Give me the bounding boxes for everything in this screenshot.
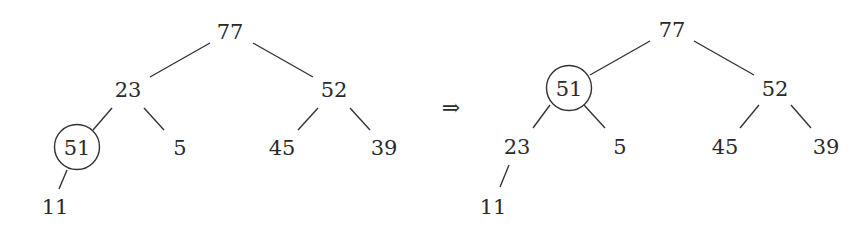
tree-node: 77 xyxy=(217,20,244,44)
tree-node: 23 xyxy=(504,135,531,159)
edge-52-45 xyxy=(740,105,759,128)
tree-node: 52 xyxy=(762,77,789,101)
edge-52-39 xyxy=(791,105,811,128)
tree-node: 39 xyxy=(371,136,398,160)
tree-node: 77 xyxy=(659,18,686,42)
tree-node: 5 xyxy=(613,135,626,159)
tree-before: 77 23 52 51 5 45 39 11 xyxy=(42,20,398,219)
edge-77-23 xyxy=(150,43,210,77)
tree-after: 77 51 52 23 5 45 39 11 xyxy=(480,18,840,219)
heap-diagram: 77 23 52 51 5 45 39 11 ⇒ 77 51 52 xyxy=(0,0,865,228)
tree-node: 23 xyxy=(115,78,142,102)
edge-77-52 xyxy=(253,43,313,77)
edge-52-39 xyxy=(350,108,370,130)
edge-51-11 xyxy=(59,170,67,189)
edge-23-11 xyxy=(500,165,509,187)
edge-23-5 xyxy=(144,108,164,130)
edge-51-5 xyxy=(584,105,605,128)
edge-77-51 xyxy=(590,41,650,75)
tree-node: 5 xyxy=(173,136,186,160)
tree-node: 52 xyxy=(321,78,348,102)
tree-node: 45 xyxy=(269,136,296,160)
tree-node: 39 xyxy=(813,135,840,159)
tree-node-highlighted: 51 xyxy=(556,77,583,101)
edge-23-51 xyxy=(93,108,112,130)
tree-node: 45 xyxy=(712,135,739,159)
tree-node: 11 xyxy=(42,195,69,219)
tree-node-highlighted: 51 xyxy=(64,136,91,160)
edge-51-23 xyxy=(533,105,550,128)
edge-77-52 xyxy=(694,41,754,75)
implies-arrow-icon: ⇒ xyxy=(442,95,460,120)
edge-52-45 xyxy=(298,108,318,130)
tree-node: 11 xyxy=(480,195,507,219)
